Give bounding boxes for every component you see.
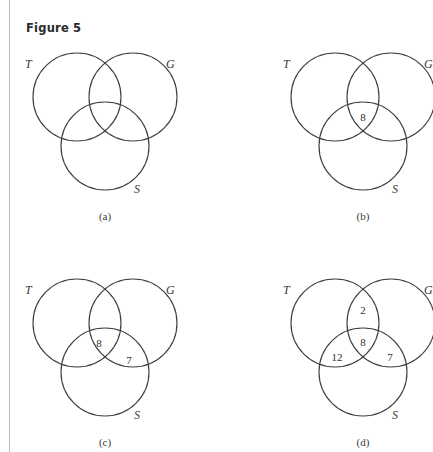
circle-g <box>89 53 177 141</box>
set-label-t: T <box>283 284 290 296</box>
circle-s <box>61 328 149 416</box>
circle-g <box>347 53 433 141</box>
circle-t <box>33 53 121 141</box>
set-label-s: S <box>392 409 398 421</box>
panel-caption-c: (c) <box>99 436 111 448</box>
venn-panel-d: T G S 2 8 12 7 (d) <box>205 226 409 452</box>
venn-diagram-a: T G S <box>0 0 204 226</box>
region-count-t-and-g-and-s: 8 <box>360 112 366 123</box>
region-count-t-and-s-only: 12 <box>332 352 343 363</box>
circle-t <box>291 53 379 141</box>
region-count-g-and-s-only: 7 <box>126 355 132 366</box>
set-label-g: G <box>166 284 175 296</box>
set-label-s: S <box>392 183 398 195</box>
venn-panel-c: T G S 8 7 (c) <box>0 226 204 452</box>
venn-circles-a <box>0 0 204 226</box>
set-label-t: T <box>25 58 32 70</box>
venn-circles-d <box>205 226 409 452</box>
set-label-g: G <box>424 284 433 296</box>
panel-caption-d: (d) <box>357 436 370 448</box>
panel-caption-b: (b) <box>357 210 370 222</box>
set-label-t: T <box>25 284 32 296</box>
venn-diagram-b: T G S 8 <box>205 0 409 226</box>
region-count-t-and-g-only: 2 <box>360 305 366 316</box>
panel-caption-a: (a) <box>99 210 111 222</box>
set-label-s: S <box>134 183 140 195</box>
set-label-g: G <box>424 58 433 70</box>
set-label-g: G <box>166 58 175 70</box>
venn-circles-b <box>205 0 409 226</box>
circle-s <box>61 102 149 190</box>
venn-diagram-c: T G S 8 7 <box>0 226 204 452</box>
venn-panel-a: T G S (a) <box>0 0 204 226</box>
region-count-t-and-g-and-s: 8 <box>96 338 102 349</box>
venn-diagram-d: T G S 2 8 12 7 <box>205 226 409 452</box>
circle-g <box>89 279 177 367</box>
circle-t <box>33 279 121 367</box>
set-label-t: T <box>283 58 290 70</box>
set-label-s: S <box>134 409 140 421</box>
region-count-g-and-s-only: 7 <box>387 352 393 363</box>
region-count-t-and-g-and-s: 8 <box>360 337 366 348</box>
venn-panel-b: T G S 8 (b) <box>205 0 409 226</box>
